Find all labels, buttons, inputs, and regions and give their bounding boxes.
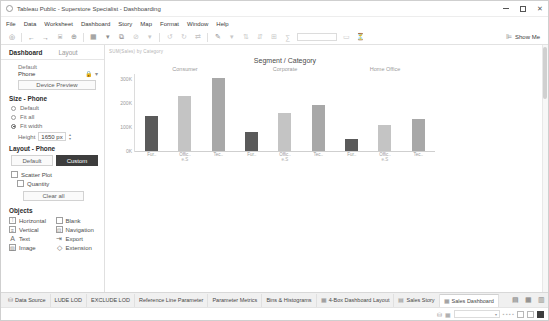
back-arrow-icon[interactable]: ← [25, 31, 38, 44]
object-horizontal[interactable]: ⦙ Horizontal [9, 217, 52, 224]
bar-consumer-office-supplies[interactable] [178, 96, 191, 151]
object-export[interactable]: ⇥ Export [56, 235, 99, 242]
view-normal-icon[interactable] [517, 311, 524, 318]
menu-worksheet[interactable]: Worksheet [44, 21, 78, 27]
layout-icon[interactable]: ▦ [445, 311, 451, 318]
canvas-scrollbar-thumb[interactable] [543, 47, 547, 99]
chevron-down-icon[interactable]: ▾ [95, 70, 98, 77]
view-fit-icon[interactable] [527, 311, 534, 318]
clear-dropdown-icon[interactable]: ▾ [143, 31, 156, 44]
object-blank[interactable]: Blank [56, 217, 99, 224]
menu-data[interactable]: Data [24, 21, 42, 27]
bar-consumer-furniture[interactable] [145, 116, 158, 151]
fit-dropdown[interactable] [297, 33, 337, 41]
toolbar-separator [207, 33, 208, 42]
tab-dashboard[interactable]: Dashboard [9, 49, 42, 56]
forward-arrow-icon[interactable]: → [39, 31, 52, 44]
new-worksheet-dropdown-icon[interactable]: ▾ [101, 31, 114, 44]
device-preview-button[interactable]: Device Preview [18, 80, 96, 90]
tab-lude-lod[interactable]: LUDE LOD [51, 294, 88, 307]
height-stepper[interactable]: Height 1650 px ▴▾ [9, 132, 98, 141]
status-bar: ⛁ ▦ ▾ ▪ ▪ ▪ ▪ [1, 307, 548, 320]
tab-sales-story[interactable]: ▤ Sales Story [394, 294, 439, 307]
menu-help[interactable]: Help [216, 21, 233, 27]
maximize-button[interactable] [514, 1, 531, 16]
bar-corporate-office-supplies[interactable] [278, 113, 291, 152]
chart-sheet[interactable]: SUM(Sales) by Category Segment / Categor… [105, 45, 435, 292]
tab-exclude-lod[interactable]: EXCLUDE LOD [87, 294, 135, 307]
chart-title: Segment / Category [109, 57, 435, 64]
canvas-vertical-scrollbar[interactable] [542, 45, 548, 292]
tableau-home-icon[interactable]: ◎ [5, 31, 18, 44]
object-text[interactable]: A Text [9, 235, 52, 242]
objects-section-title: Objects [9, 207, 98, 214]
sort-ascending-icon[interactable]: ⇅ [239, 31, 252, 44]
stepper-arrows-icon[interactable]: ▴▾ [69, 133, 71, 141]
new-worksheet-icon[interactable]: ▦ [87, 31, 100, 44]
dashboard-icon: ▦ [444, 298, 450, 304]
add-data-source-icon[interactable]: ⊕ [67, 31, 80, 44]
bar-corporate-technology[interactable] [312, 105, 325, 151]
tab-bins-histograms[interactable]: Bins & Histograms [262, 294, 316, 307]
swap-rows-columns-icon[interactable]: ⇄ [191, 31, 204, 44]
tab-4-box-dashboard-layout[interactable]: ▦ 4-Box Dashboard Layout [317, 294, 395, 307]
y-tick-300k: 300K [120, 76, 132, 82]
tab-label: Parameter Metrics [212, 297, 257, 303]
bar-home-office-technology[interactable] [412, 119, 425, 151]
menu-story[interactable]: Story [118, 21, 137, 27]
highlight-icon[interactable]: ✎ [211, 31, 224, 44]
minimize-button[interactable] [497, 1, 514, 16]
object-label: Image [19, 245, 36, 251]
bar-home-office-office-supplies[interactable] [378, 125, 391, 151]
object-navigation[interactable]: ⊡ Navigation [56, 226, 99, 233]
size-option-fit-width[interactable]: Fit width [9, 123, 98, 129]
highlight-dropdown-icon[interactable]: ▾ [225, 31, 238, 44]
menu-window[interactable]: Window [187, 21, 213, 27]
duplicate-sheet-icon[interactable]: ⧉ [115, 31, 128, 44]
close-icon[interactable]: ✕ [531, 1, 548, 16]
object-image[interactable]: ▨ Image [9, 244, 52, 251]
sort-descending-icon[interactable]: ⇵ [253, 31, 266, 44]
clear-all-button[interactable]: Clear all [23, 191, 84, 201]
group-members-icon[interactable]: ⊞ [267, 31, 280, 44]
tab-parameter-metrics[interactable]: Parameter Metrics [208, 294, 262, 307]
size-option-default[interactable]: Default [9, 105, 98, 111]
presentation-mode-icon[interactable]: ▭ [340, 31, 353, 44]
menu-format[interactable]: Format [160, 21, 184, 27]
lock-icon[interactable]: 🔒 [85, 70, 92, 77]
data-grid-icon[interactable]: ⛁ [437, 311, 442, 318]
undo-icon[interactable]: ↺ [163, 31, 176, 44]
new-dashboard-tab-icon[interactable]: ▦ [522, 294, 535, 307]
menu-map[interactable]: Map [140, 21, 157, 27]
device-dropdown[interactable]: Phone 🔒 ▾ [9, 70, 98, 77]
menu-dashboard[interactable]: Dashboard [81, 21, 115, 27]
show-me-button[interactable]: ⊫ Show Me [506, 33, 540, 41]
size-option-fit-all[interactable]: Fit all [9, 114, 98, 120]
new-story-tab-icon[interactable]: ▥ [535, 294, 548, 307]
clear-sheet-icon[interactable]: ⊘ [129, 31, 142, 44]
dashboard-canvas[interactable]: SUM(Sales) by Category Segment / Categor… [105, 45, 548, 292]
save-icon[interactable]: ⌸ [53, 31, 66, 44]
tab-reference-line-parameter[interactable]: Reference Line Parameter [135, 294, 209, 307]
height-value[interactable]: 1650 px [38, 132, 66, 141]
layout-item-scatter-plot[interactable]: Scatter Plot [9, 171, 98, 178]
filter-icon[interactable]: ⏳ [354, 31, 367, 44]
status-dropdown[interactable]: ▾ [454, 310, 500, 318]
bar-consumer-technology[interactable] [212, 78, 225, 151]
tab-data-source[interactable]: ⛁ Data Source [4, 294, 51, 307]
tab-sales-dashboard[interactable]: ▦ Sales Dashboard [440, 294, 499, 307]
bar-corporate-furniture[interactable] [245, 132, 258, 151]
bar-home-office-furniture[interactable] [345, 139, 358, 151]
layout-item-quantity[interactable]: Quantity [9, 180, 98, 187]
new-worksheet-tab-icon[interactable]: ▤ [509, 294, 522, 307]
image-object-icon: ▨ [9, 244, 16, 251]
layout-toggle-default[interactable]: Default [11, 155, 53, 166]
totals-icon[interactable]: ∑ [281, 31, 294, 44]
menu-file[interactable]: File [6, 21, 21, 27]
object-extension[interactable]: ◇ Extension [56, 244, 99, 251]
redo-icon[interactable]: ↻ [177, 31, 190, 44]
view-full-icon[interactable] [537, 311, 544, 318]
tab-layout[interactable]: Layout [58, 49, 77, 56]
layout-toggle-custom[interactable]: Custom [56, 155, 98, 166]
object-vertical[interactable]: ≡ Vertical [9, 226, 52, 233]
